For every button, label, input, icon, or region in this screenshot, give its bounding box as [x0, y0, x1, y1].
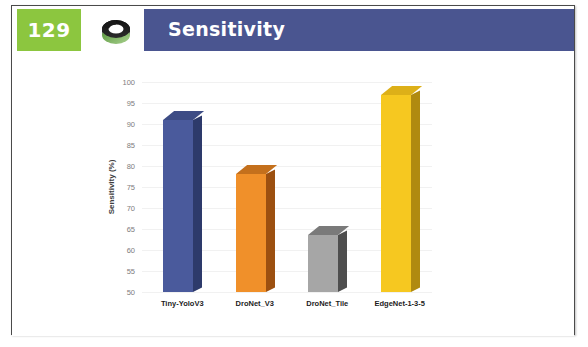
plot-area: Sensitivity (%) 10095908580757065605550T… [142, 82, 432, 292]
y-axis-tick-label: 50 [127, 288, 135, 297]
bar-front-face [381, 95, 411, 292]
y-axis-tick-label: 85 [127, 141, 135, 150]
page-number-badge: 129 [17, 9, 81, 51]
y-axis-tick-label: 55 [127, 267, 135, 276]
y-axis-tick-label: 60 [127, 246, 135, 255]
y-axis-tick-label: 90 [127, 120, 135, 129]
bar-side-face [193, 115, 202, 292]
x-axis-tick-label: Tiny-YoloV3 [161, 299, 204, 308]
y-axis-tick-label: 80 [127, 162, 135, 171]
bar [381, 95, 411, 292]
y-axis-title: Sensitivity (%) [107, 160, 116, 215]
y-axis-tick-label: 100 [122, 78, 135, 87]
page-title: Sensitivity [168, 18, 285, 40]
bar [163, 120, 193, 292]
x-axis-tick-label: DroNet_Tile [306, 299, 348, 308]
swirl-ring-logo-icon [94, 11, 138, 51]
bar-front-face [236, 174, 266, 292]
grid-line [142, 82, 432, 83]
chart-area: Sensitivity (%) 10095908580757065605550T… [12, 54, 574, 336]
page-number-text: 129 [27, 18, 70, 42]
bar-front-face [163, 120, 193, 292]
slide-frame: 129 [11, 5, 575, 335]
bar-front-face [308, 235, 338, 292]
title-bar: Sensitivity [144, 9, 574, 51]
y-axis-tick-label: 65 [127, 225, 135, 234]
bar-side-face [266, 170, 275, 292]
slide-header: 129 [12, 6, 574, 54]
grid-line [142, 292, 432, 293]
y-axis-tick-label: 70 [127, 204, 135, 213]
bar [308, 235, 338, 292]
bar-side-face [411, 90, 420, 292]
y-axis-tick-label: 75 [127, 183, 135, 192]
y-axis-tick-label: 95 [127, 99, 135, 108]
bar [236, 174, 266, 292]
bar-side-face [338, 231, 347, 292]
x-axis-tick-label: EdgeNet-1-3-5 [375, 299, 425, 308]
x-axis-tick-label: DroNet_V3 [236, 299, 274, 308]
